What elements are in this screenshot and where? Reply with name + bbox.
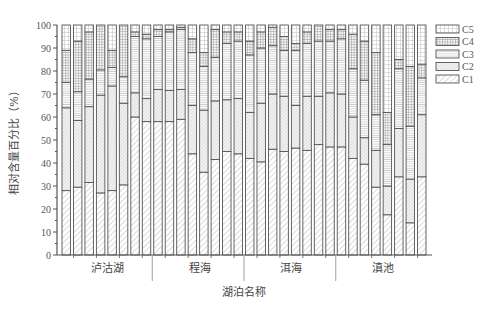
bar-segment-c5 [372, 25, 380, 53]
bar-segment-c4 [73, 41, 81, 92]
bar-segment-c5 [246, 25, 254, 41]
bar-segment-c2 [395, 129, 403, 177]
bar-segment-c2 [96, 95, 104, 193]
bar-segment-c2 [291, 106, 299, 149]
bar [383, 25, 391, 255]
x-group-label: 泸沽湖 [91, 262, 124, 275]
x-axis: 泸沽湖程海洱海滇池 [57, 255, 432, 281]
bar-segment-c4 [303, 32, 311, 44]
bar-segment-c5 [303, 25, 311, 32]
bar-segment-c1 [177, 119, 185, 255]
bar-segment-c2 [303, 96, 311, 150]
bar-segment-c3 [383, 145, 391, 186]
bar-segment-c1 [234, 154, 242, 255]
bar-segment-c1 [223, 152, 231, 256]
bar-segment-c4 [418, 64, 426, 78]
bar [96, 25, 104, 255]
bar [200, 25, 208, 255]
bar-segment-c3 [257, 48, 265, 103]
bar-segment-c1 [73, 187, 81, 255]
bar-segment-c5 [360, 25, 368, 41]
bar [165, 25, 173, 255]
bar-segment-c5 [418, 25, 426, 64]
bar-segment-c4 [326, 30, 334, 41]
bar-segment-c1 [395, 177, 403, 255]
bar-segment-c1 [96, 193, 104, 255]
bar-segment-c1 [360, 164, 368, 255]
bar-segment-c2 [326, 93, 334, 147]
y-axis: 0102030405060708090100 [36, 20, 57, 261]
bar-segment-c4 [108, 50, 116, 67]
bar-segment-c1 [349, 158, 357, 255]
bar-segment-c1 [268, 149, 276, 255]
bar [303, 25, 311, 255]
bar-segment-c4 [154, 30, 162, 37]
bar-segment-c5 [108, 25, 116, 50]
bar [326, 25, 334, 255]
legend-swatch [436, 75, 459, 83]
bar-segment-c1 [337, 147, 345, 255]
x-group-label: 程海 [189, 261, 211, 275]
bar-segment-c4 [406, 66, 414, 126]
bar-segment-c5 [131, 25, 139, 32]
bar-segment-c3 [119, 77, 127, 103]
bar [73, 25, 81, 255]
y-tick-label: 40 [41, 158, 51, 169]
bar-segment-c4 [131, 32, 139, 37]
bar-segment-c2 [119, 103, 127, 185]
bar-segment-c2 [165, 91, 173, 122]
bar-segment-c4 [314, 25, 322, 41]
bar-segment-c1 [142, 122, 150, 255]
bar-segment-c4 [268, 27, 276, 45]
bar-segment-c4 [223, 32, 231, 44]
bar-segment-c3 [349, 69, 357, 117]
bar-segment-c2 [360, 138, 368, 164]
bar [406, 25, 414, 255]
legend-label: C3 [462, 49, 474, 60]
bar-segment-c2 [406, 179, 414, 223]
bar-segment-c5 [177, 25, 185, 27]
bar-segment-c2 [268, 94, 276, 149]
bar [142, 25, 150, 255]
bar [291, 25, 299, 255]
bar-segment-c3 [108, 68, 116, 86]
legend-item-c3: C3 [436, 49, 474, 60]
bar-segment-c3 [246, 55, 254, 113]
bar-segment-c5 [291, 25, 299, 43]
bar [395, 25, 403, 255]
bar-segment-c2 [383, 186, 391, 215]
bar-segment-c3 [280, 50, 288, 96]
bar-segment-c3 [268, 46, 276, 94]
bar [337, 25, 345, 255]
bar-segment-c3 [165, 32, 173, 91]
bar-segment-c5 [73, 25, 81, 41]
bar-segment-c5 [200, 25, 208, 53]
legend-item-c2: C2 [436, 61, 474, 72]
legend-swatch [436, 63, 459, 71]
bar-segment-c2 [257, 103, 265, 162]
bar-segment-c1 [291, 148, 299, 255]
bar-segment-c4 [383, 112, 391, 144]
legend-item-c4: C4 [436, 36, 474, 47]
bar-segment-c1 [383, 215, 391, 255]
bar-segment-c5 [349, 25, 357, 34]
bar-segment-c1 [211, 160, 219, 255]
bar-segment-c1 [303, 150, 311, 255]
bar-segment-c1 [257, 162, 265, 255]
legend-label: C2 [462, 61, 474, 72]
bar-segment-c4 [372, 53, 380, 115]
bar-series-group [62, 25, 426, 255]
bar-segment-c2 [142, 99, 150, 122]
bar-segment-c3 [418, 78, 426, 115]
bar-segment-c3 [73, 92, 81, 121]
bar [234, 25, 242, 255]
bar-segment-c3 [291, 50, 299, 105]
bar-segment-c2 [234, 99, 242, 154]
y-tick-label: 80 [41, 66, 51, 77]
bar-segment-c3 [142, 39, 150, 99]
bar-segment-c2 [154, 89, 162, 121]
y-axis-title: 相对含量百分比（%） [7, 85, 21, 194]
bar-segment-c4 [280, 37, 288, 51]
bar-segment-c4 [200, 53, 208, 67]
bar-segment-c2 [73, 120, 81, 187]
